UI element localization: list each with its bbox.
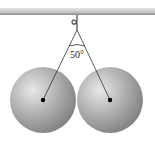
left-sphere-center [41, 98, 45, 102]
angle-label: 50° [70, 49, 84, 60]
right-sphere-center [108, 98, 112, 102]
hook-icon [72, 15, 77, 30]
angle-arc [69, 45, 85, 47]
hanging-spheres-diagram: 50° [0, 0, 155, 141]
ceiling [0, 8, 155, 15]
